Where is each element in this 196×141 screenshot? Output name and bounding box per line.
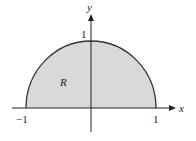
y-axis-label: y <box>86 1 92 13</box>
semicircle-diagram: x y −1 1 1 R <box>0 0 196 141</box>
x-tick-neg1: −1 <box>16 113 28 125</box>
x-axis-arrow-icon <box>169 105 176 111</box>
y-tick-1: 1 <box>81 28 87 40</box>
region-label: R <box>59 76 67 88</box>
x-tick-1: 1 <box>153 113 159 125</box>
y-axis-arrow-icon <box>88 14 94 21</box>
x-axis-label: x <box>178 102 184 114</box>
